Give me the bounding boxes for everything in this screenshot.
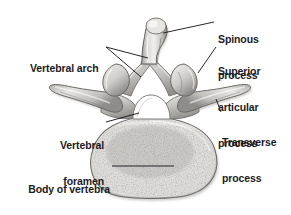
label-vertebral-arch-line-1: Vertebral arch: [30, 62, 99, 74]
label-transverse-process-line-1: Transverse: [222, 136, 276, 148]
spinous-process-shape: [141, 18, 168, 66]
label-transverse-process: Transverse process: [222, 112, 276, 208]
label-transverse-process-line-2: process: [222, 172, 276, 184]
vertebral-foramen-shape: [133, 95, 170, 119]
label-body-of-vertebra-line-1: Body of vertebra: [10, 183, 110, 195]
label-vertebral-arch: Vertebral arch: [30, 38, 99, 98]
label-superior-articular-process-line-1: Superior: [218, 65, 260, 77]
leader-spinous-process: [163, 22, 214, 33]
label-vertebral-foramen-line-1: Vertebral: [24, 139, 104, 151]
label-body-of-vertebra: Body of vertebra: [10, 159, 110, 215]
leader-superior-articular-process: [198, 47, 216, 73]
vertebra-diagram-figure: Spinous process Superior articular proce…: [0, 0, 291, 215]
superior-articular-process-shape: [103, 64, 197, 96]
